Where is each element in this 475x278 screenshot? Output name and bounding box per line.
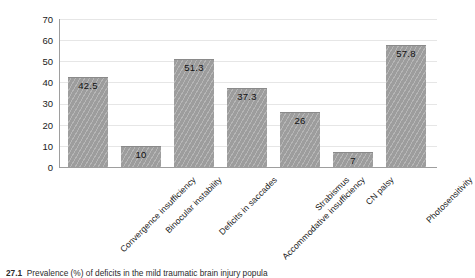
cat-label-accommodative-insufficiency: Accommodative insufficiency [281, 175, 367, 261]
y-tick-60: 60 [0, 36, 53, 46]
gridline-70 [60, 19, 437, 20]
axis-baseline [60, 167, 437, 168]
bar-deficits-in-saccades[interactable] [174, 59, 214, 168]
bar-value-label: 7 [333, 156, 373, 166]
bar-value-label: 51.3 [174, 63, 214, 73]
gridline-40 [60, 82, 437, 83]
x-axis-category-labels: Convergence insufficiency Binocular inst… [0, 170, 446, 262]
y-tick-70: 70 [0, 15, 53, 25]
gridline-50 [60, 61, 437, 62]
gridline-60 [60, 40, 437, 41]
cat-label-photosensitivity: Photosensitivity [425, 175, 475, 225]
bar-value-label: 57.8 [386, 49, 426, 59]
y-tick-20: 20 [0, 121, 53, 131]
plot-area: 42.5 10 51.3 37.3 26 7 57.8 [60, 19, 437, 167]
bar-value-label: 26 [280, 116, 320, 126]
cat-label-cn-palsy: CN palsy [364, 175, 396, 207]
y-tick-30: 30 [0, 99, 53, 109]
bar-value-label: 10 [121, 150, 161, 160]
y-tick-40: 40 [0, 78, 53, 88]
caption-text: Prevalence (%) of deficits in the mild t… [27, 268, 268, 278]
bar-photosensitivity[interactable] [386, 45, 426, 167]
y-tick-10: 10 [0, 142, 53, 152]
figure-number: 27.1 [6, 268, 22, 278]
bar-value-label: 37.3 [227, 92, 267, 102]
bar-value-label: 42.5 [68, 81, 108, 91]
figure-caption: 27.1 Prevalence (%) of deficits in the m… [6, 268, 458, 278]
y-tick-50: 50 [0, 57, 53, 67]
cat-label-deficits-in-saccades: Deficits in saccades [218, 175, 279, 236]
